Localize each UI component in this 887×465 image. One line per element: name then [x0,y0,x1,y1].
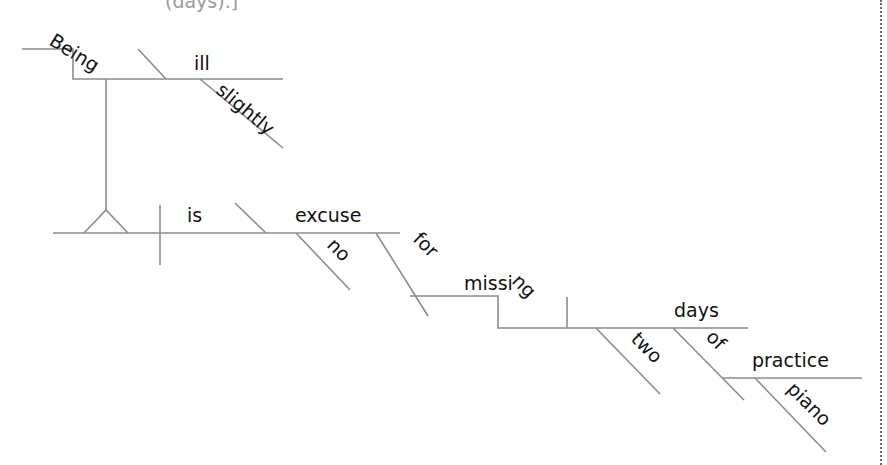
complement-slash-excuse [235,203,266,233]
word-no: no [323,233,355,265]
word-excuse: excuse [295,204,361,226]
word-slightly: slightly [212,78,279,139]
word-two: two [627,327,667,367]
word-is: is [187,204,202,226]
caption-fragment: (days).] [165,0,238,12]
diagram-svg: Being ill slightly is excuse no for miss… [0,0,887,465]
word-piano: piano [783,377,836,430]
word-of: of [702,325,731,354]
word-for: for [409,227,443,261]
sentence-diagram: (days).] Being ill slightly is excuse no… [0,0,887,465]
dotted-page-border [880,0,882,465]
word-ill: ill [194,52,210,74]
word-missing: missi [464,272,513,294]
word-days: days [674,299,719,321]
word-missing-tail: ng [508,269,541,302]
word-practice: practice [752,349,829,371]
word-being: Being [46,29,104,76]
complement-slash-ill [138,49,166,79]
pedestal-fork [84,210,128,233]
